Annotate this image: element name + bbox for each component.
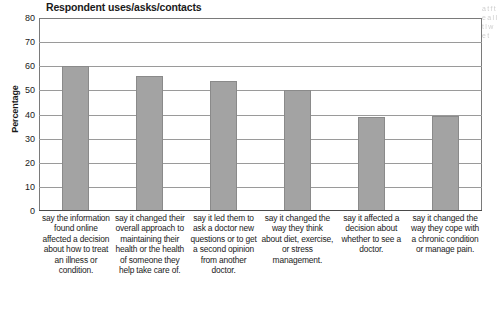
x-axis-label: say it changed the way they cope with a …	[408, 213, 482, 275]
page-bleed-text: a t f t e a l l t l w e t	[482, 0, 498, 322]
bar-series	[39, 18, 482, 211]
y-axis-tick-label: 70	[1, 37, 35, 47]
bar-slot	[187, 18, 261, 211]
bar	[210, 81, 237, 211]
y-axis-tick-labels: 80706050403020100	[0, 18, 35, 211]
x-axis-label: say it led them to ask a doctor new ques…	[187, 213, 261, 275]
y-axis-tick-label: 50	[1, 85, 35, 95]
bar-slot	[39, 18, 113, 211]
bar-slot	[334, 18, 408, 211]
x-axis-label: say it affected a decision about whether…	[334, 213, 408, 275]
bar	[284, 90, 311, 211]
x-axis-label: say it changed the way they think about …	[260, 213, 334, 275]
bar-slot	[113, 18, 187, 211]
bar	[358, 117, 385, 211]
y-axis-tick-label: 20	[1, 158, 35, 168]
bar	[62, 66, 89, 211]
bar	[432, 116, 459, 211]
chart-title: Respondent uses/asks/contacts	[46, 1, 202, 13]
y-axis-tick-label: 40	[1, 110, 35, 120]
plot-area	[39, 18, 482, 211]
x-axis-label: say the information found online affecte…	[39, 213, 113, 275]
bar-slot	[408, 18, 482, 211]
x-axis-labels: say the information found online affecte…	[39, 213, 482, 275]
bar-slot	[260, 18, 334, 211]
y-axis-tick-label: 30	[1, 134, 35, 144]
x-axis-line	[39, 210, 482, 211]
x-axis-label: say it changed their overall approach to…	[113, 213, 187, 275]
y-axis-tick-label: 0	[1, 206, 35, 216]
y-axis-tick-label: 10	[1, 182, 35, 192]
y-axis-tick-label: 80	[1, 13, 35, 23]
y-axis-tick-label: 60	[1, 61, 35, 71]
bar	[136, 76, 163, 211]
